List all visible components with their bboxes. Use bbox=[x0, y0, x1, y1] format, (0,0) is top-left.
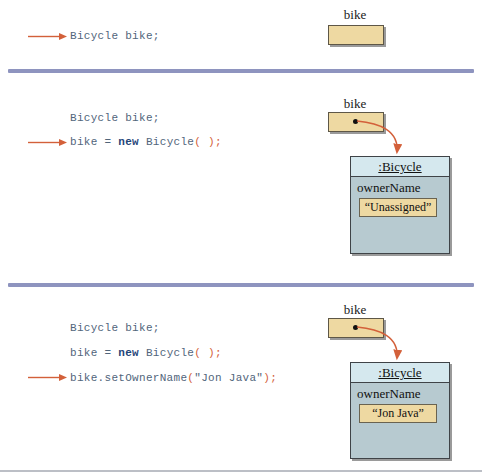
paren-tokens: ( ); bbox=[194, 347, 222, 359]
execution-arrow-icon bbox=[28, 31, 68, 42]
string-literal: "Jon Java" bbox=[194, 372, 263, 384]
keyword-new: new bbox=[118, 347, 139, 359]
object-body: ownerName “Unassigned” bbox=[351, 177, 449, 253]
code-text: Bicycle bike; bbox=[70, 30, 160, 42]
class-name-label: :Bicycle bbox=[378, 159, 421, 174]
code-text: Bicycle bbox=[139, 347, 194, 359]
section-divider bbox=[8, 69, 474, 73]
keyword-new: new bbox=[118, 136, 139, 148]
bicycle-object-box: :Bicycle ownerName “Unassigned” bbox=[350, 156, 450, 254]
code-line-instantiation: bike = new Bicycle( ); bbox=[70, 136, 222, 148]
object-body: ownerName “Jon Java” bbox=[351, 383, 449, 458]
execution-arrow-icon bbox=[28, 137, 68, 148]
field-value-box: “Unassigned” bbox=[359, 198, 437, 217]
page-bottom-rule bbox=[0, 470, 482, 472]
object-class-header: :Bicycle bbox=[351, 363, 449, 383]
code-line-declaration: Bicycle bike; bbox=[70, 30, 160, 42]
close-paren: ); bbox=[263, 372, 277, 384]
code-text: Bicycle bbox=[139, 136, 194, 148]
code-line-instantiation: bike = new Bicycle( ); bbox=[70, 347, 222, 359]
variable-label: bike bbox=[328, 7, 382, 23]
section-divider bbox=[8, 283, 474, 287]
field-name-label: ownerName bbox=[357, 386, 421, 402]
execution-arrow-icon bbox=[28, 372, 68, 383]
code-line-declaration: Bicycle bike; bbox=[70, 112, 160, 124]
code-text: Bicycle bike; bbox=[70, 112, 160, 124]
class-name-label: :Bicycle bbox=[378, 365, 421, 380]
variable-label: bike bbox=[328, 96, 382, 112]
bicycle-object-box: :Bicycle ownerName “Jon Java” bbox=[350, 362, 450, 459]
object-creation-figure: Bicycle bike; bike Bicycle bike; bike = … bbox=[0, 0, 482, 476]
field-value-box: “Jon Java” bbox=[359, 404, 437, 423]
reference-arrow-icon bbox=[352, 117, 408, 161]
code-line-declaration: Bicycle bike; bbox=[70, 322, 160, 334]
code-line-setter-call: bike.setOwnerName("Jon Java"); bbox=[70, 372, 277, 384]
reference-arrow-icon bbox=[352, 323, 408, 367]
variable-label: bike bbox=[328, 302, 382, 318]
code-text: bike.setOwnerName bbox=[70, 372, 187, 384]
object-class-header: :Bicycle bbox=[351, 157, 449, 177]
code-text: bike = bbox=[70, 136, 118, 148]
code-text: bike = bbox=[70, 347, 118, 359]
bike-variable-box bbox=[328, 25, 384, 45]
paren-tokens: ( ); bbox=[194, 136, 222, 148]
field-name-label: ownerName bbox=[357, 180, 421, 196]
code-text: Bicycle bike; bbox=[70, 322, 160, 334]
